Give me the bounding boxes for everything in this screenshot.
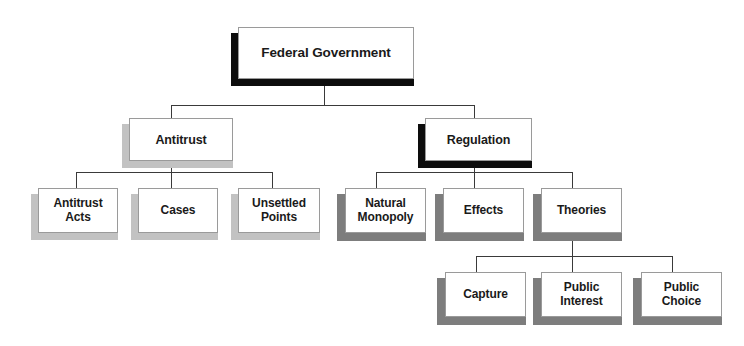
public-interest-shadow-bottom [533, 317, 622, 325]
connector-antitrust-bus [76, 172, 272, 173]
node-label: Natural Monopoly [358, 197, 414, 224]
regulation-shadow-bottom [418, 161, 532, 168]
node-effects[interactable]: Effects [443, 188, 524, 233]
node-label: Unsettled Points [252, 197, 306, 224]
root-shadow-bottom [231, 79, 414, 86]
node-theories[interactable]: Theories [541, 188, 622, 233]
connector-public-interest-up [572, 256, 573, 272]
effects-shadow-bottom [435, 233, 524, 241]
node-capture[interactable]: Capture [445, 272, 526, 317]
node-label: Federal Government [261, 45, 391, 60]
node-federal-government[interactable]: Federal Government [238, 27, 414, 79]
capture-shadow-bottom [437, 317, 526, 325]
node-label: Theories [557, 204, 606, 217]
node-regulation[interactable]: Regulation [425, 118, 532, 161]
antitrust-shadow-bottom [122, 161, 233, 168]
connector-regulation-up [474, 105, 475, 118]
natural-monopoly-shadow-bottom [337, 233, 426, 241]
node-public-choice[interactable]: Public Choice [641, 272, 722, 317]
connector-antitrust-up [171, 105, 172, 118]
node-cases[interactable]: Cases [138, 188, 218, 233]
connector-level2-bus [171, 105, 474, 106]
connector-effects-up [474, 172, 475, 188]
node-unsettled-points[interactable]: Unsettled Points [238, 188, 320, 233]
node-label: Regulation [447, 133, 511, 147]
connector-root-down [324, 86, 325, 105]
cases-shadow-bottom [131, 233, 218, 240]
connector-theories-up [572, 172, 573, 188]
connector-cases-up [171, 172, 172, 188]
node-label: Antitrust Acts [53, 197, 102, 224]
public-choice-shadow-bottom [633, 317, 722, 325]
node-label: Capture [463, 288, 508, 301]
node-label: Cases [161, 204, 196, 217]
org-chart-diagram: Federal Government Antitrust Regulation … [0, 0, 744, 346]
connector-unsettled-points-up [272, 172, 273, 188]
connector-theories-bus [476, 256, 672, 257]
antitrust-acts-shadow-bottom [31, 233, 118, 240]
node-antitrust-acts[interactable]: Antitrust Acts [38, 188, 118, 233]
theories-shadow-bottom [533, 233, 622, 241]
node-antitrust[interactable]: Antitrust [129, 118, 233, 161]
node-natural-monopoly[interactable]: Natural Monopoly [345, 188, 426, 233]
connector-natural-monopoly-up [376, 172, 377, 188]
node-label: Public Interest [560, 281, 603, 308]
connector-public-choice-up [672, 256, 673, 272]
connector-antitrust-acts-up [76, 172, 77, 188]
node-label: Public Choice [662, 281, 701, 308]
node-public-interest[interactable]: Public Interest [541, 272, 622, 317]
unsettled-points-shadow-bottom [231, 233, 320, 240]
node-label: Effects [464, 204, 503, 217]
connector-capture-up [476, 256, 477, 272]
node-label: Antitrust [155, 133, 206, 147]
